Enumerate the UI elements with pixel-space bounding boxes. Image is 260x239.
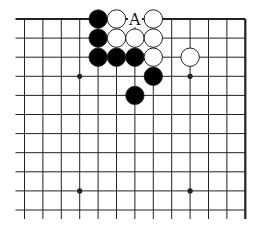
white-stone — [144, 48, 162, 66]
go-board: A — [0, 0, 260, 239]
white-stone — [126, 29, 144, 47]
white-stone — [181, 48, 199, 66]
star-point — [188, 188, 193, 193]
black-stone — [89, 29, 107, 47]
black-stone — [107, 48, 125, 66]
star-point — [188, 74, 193, 79]
point-label-a: A — [128, 10, 141, 29]
black-stone — [126, 86, 144, 104]
white-stone — [107, 29, 125, 47]
black-stone — [126, 48, 144, 66]
white-stone — [144, 29, 162, 47]
star-point — [77, 74, 82, 79]
black-stone — [89, 48, 107, 66]
black-stone — [144, 67, 162, 85]
black-stone — [89, 10, 107, 28]
stones — [89, 10, 199, 105]
star-point — [77, 188, 82, 193]
white-stone — [107, 10, 125, 28]
point-labels: A — [128, 10, 142, 29]
white-stone — [144, 10, 162, 28]
